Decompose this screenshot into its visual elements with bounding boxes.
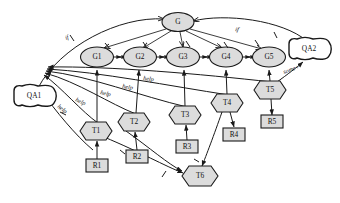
tick-t2-t6 — [120, 150, 125, 154]
edge-g-g4 — [186, 31, 222, 48]
node-g1[interactable]: G1 — [81, 47, 114, 67]
node-g1-label: G1 — [92, 52, 101, 61]
edge-g-g1 — [104, 29, 166, 48]
edge-qa2-g-if — [193, 18, 307, 41]
tick-qa2-g — [274, 32, 277, 38]
tick-t1-t6 — [162, 171, 166, 177]
edge-t2-g2 — [136, 70, 139, 113]
node-r5-label: R5 — [268, 117, 277, 126]
node-g4[interactable]: G4 — [210, 47, 243, 67]
edge-t5-qa1 — [48, 67, 272, 82]
node-qa1-label: QA1 — [27, 91, 42, 100]
node-g3[interactable]: G3 — [167, 47, 200, 67]
node-r1-label: R1 — [93, 161, 102, 170]
edge-r2-t2 — [135, 132, 137, 150]
node-g5-label: G5 — [264, 52, 273, 61]
node-r3[interactable]: R3 — [176, 140, 198, 153]
node-r2[interactable]: R2 — [126, 150, 148, 163]
node-r2-label: R2 — [133, 152, 142, 161]
node-t5-label: T5 — [266, 85, 275, 94]
node-qa2[interactable]: QA2 — [289, 38, 331, 60]
node-g2-label: G2 — [135, 52, 144, 61]
node-r4-label: R4 — [230, 130, 239, 139]
node-qa1[interactable]: QA1 — [14, 85, 56, 107]
node-g-label: G — [175, 17, 181, 26]
node-r5[interactable]: R5 — [261, 115, 283, 128]
tick-g-g5 — [255, 40, 259, 46]
node-qa2-label: QA2 — [302, 44, 317, 53]
label-help-1: help — [143, 74, 155, 82]
label-if-left: if — [64, 33, 71, 41]
node-t2-label: T2 — [130, 117, 139, 126]
goal-model-graph: G G1 G2 G3 G4 G5 T1 T2 T3 T4 T5 — [0, 0, 340, 203]
edge-r3-t3 — [186, 125, 187, 140]
node-g3-label: G3 — [178, 52, 187, 61]
edge-t5-r5 — [271, 99, 272, 115]
label-help-3: help — [100, 88, 112, 97]
edge-labels: if if some+ help help help help help — [56, 25, 300, 115]
node-t6-label: T6 — [196, 171, 205, 180]
node-g5[interactable]: G5 — [253, 47, 286, 67]
label-if-right: if — [235, 25, 241, 33]
edge-t4-g4 — [226, 70, 227, 94]
node-t6[interactable]: T6 — [182, 166, 218, 186]
node-t1-label: T1 — [92, 126, 101, 135]
node-t3[interactable]: T3 — [169, 106, 201, 124]
edge-g-g5 — [190, 29, 262, 49]
tick-g-g3 — [186, 41, 190, 47]
node-r1[interactable]: R1 — [86, 159, 108, 172]
edge-t4-t6 — [202, 112, 222, 166]
node-g2[interactable]: G2 — [124, 47, 157, 67]
node-r3-label: R3 — [183, 142, 192, 151]
edge-t4-r4 — [230, 112, 234, 127]
node-t4-label: T4 — [223, 98, 232, 107]
node-g4-label: G4 — [221, 52, 230, 61]
node-t4[interactable]: T4 — [211, 94, 243, 112]
node-g[interactable]: G — [162, 13, 194, 32]
tick-t4-t6 — [194, 159, 199, 162]
node-t3-label: T3 — [181, 110, 190, 119]
edge-g-g3 — [180, 32, 183, 47]
edge-g-g2 — [143, 31, 171, 48]
edge-t5-g5 — [269, 70, 270, 81]
node-t2[interactable]: T2 — [118, 113, 150, 131]
node-r4[interactable]: R4 — [223, 128, 245, 141]
diagram-canvas: G G1 G2 G3 G4 G5 T1 T2 T3 T4 T5 — [0, 0, 340, 203]
tick-qa1-g — [70, 35, 74, 41]
node-t1[interactable]: T1 — [80, 122, 112, 140]
edge-t3-g3 — [184, 70, 185, 106]
node-t5[interactable]: T5 — [254, 81, 286, 99]
label-some-plus: some+ — [282, 63, 300, 75]
